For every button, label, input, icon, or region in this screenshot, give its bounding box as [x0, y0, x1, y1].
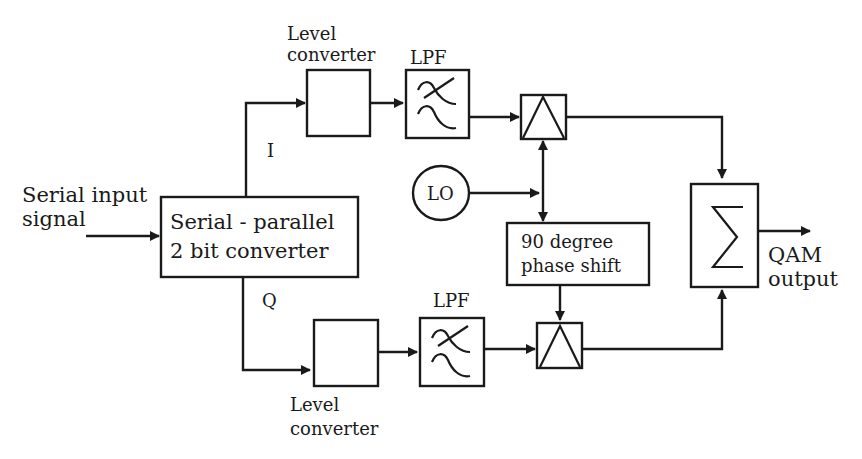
q-level-converter-label-line2: converter — [290, 418, 379, 439]
i-label: I — [267, 140, 274, 161]
serial-input-label-line1: Serial input — [22, 183, 148, 207]
q-mixer-to-summer-arrow — [582, 290, 722, 349]
q-lpf-box — [420, 318, 484, 386]
serial-parallel-label-line1: Serial - parallel — [170, 210, 335, 234]
serial-parallel-label-line2: 2 bit converter — [170, 239, 329, 263]
i-level-converter-label-line1: Level — [287, 23, 336, 44]
i-branch: I Level converter LPF — [246, 23, 722, 197]
i-path-arrow — [246, 103, 305, 197]
serial-input: Serial input signal — [22, 183, 159, 236]
summer-block: QAM output — [691, 184, 839, 291]
serial-parallel-converter: Serial - parallel 2 bit converter — [161, 197, 358, 277]
qam-modulator-diagram: Serial input signal Serial - parallel 2 … — [0, 0, 862, 459]
q-lpf-label: LPF — [433, 290, 470, 311]
phase-shift-label-line1: 90 degree — [521, 231, 613, 252]
serial-parallel-box — [161, 197, 358, 277]
serial-input-label-line2: signal — [22, 207, 86, 231]
i-mixer-to-summer-arrow — [566, 117, 722, 178]
q-level-converter-box — [314, 320, 378, 386]
lo-label: LO — [427, 183, 454, 204]
i-level-converter-box — [307, 70, 370, 136]
q-label: Q — [262, 290, 277, 311]
local-oscillator: LO — [413, 141, 543, 221]
i-lpf-label: LPF — [410, 47, 447, 68]
i-mixer-box — [521, 95, 566, 139]
q-branch: Q Level converter LPF — [243, 277, 722, 439]
qam-output-label-line1: QAM — [768, 243, 822, 267]
qam-output-label-line2: output — [768, 267, 839, 291]
summer-box — [691, 184, 758, 287]
i-lpf-box — [406, 70, 469, 138]
q-level-converter-label-line1: Level — [290, 394, 339, 415]
phase-shift-label-line2: phase shift — [521, 255, 622, 276]
phase-shift-block: 90 degree phase shift — [507, 223, 649, 320]
i-level-converter-label-line2: converter — [287, 44, 376, 65]
